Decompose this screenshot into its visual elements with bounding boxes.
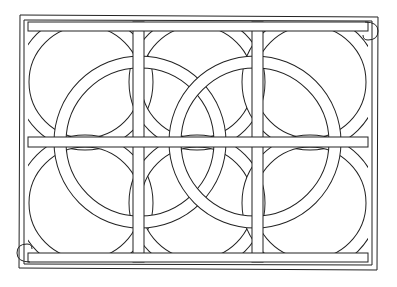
celtic-knot-artwork <box>0 0 397 287</box>
horizontal-bars <box>28 22 368 262</box>
